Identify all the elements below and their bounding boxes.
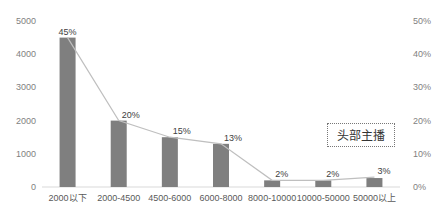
bar <box>162 137 178 187</box>
y-tick-label: 0 <box>31 182 36 192</box>
data-label: 13% <box>224 133 242 143</box>
bar <box>315 180 331 187</box>
y-tick-label: 5000 <box>16 16 36 26</box>
combo-chart: 010002000300040005000 0%10%20%30%40%50% … <box>0 0 443 220</box>
x-tick-label: 6000-8000 <box>199 193 242 203</box>
y2-tick-label: 50% <box>413 16 431 26</box>
y2-tick-label: 0% <box>413 182 426 192</box>
y2-tick-label: 10% <box>413 149 431 159</box>
x-tick-label: 10000-50000 <box>297 193 350 203</box>
y-tick-label: 3000 <box>16 82 36 92</box>
x-tick-label: 4500-6000 <box>148 193 191 203</box>
bar <box>264 180 280 187</box>
category-axis-labels: 2000以下2000-45004500-60006000-80008000-10… <box>49 193 396 203</box>
data-label: 2% <box>326 169 339 179</box>
x-tick-label: 2000-4500 <box>97 193 140 203</box>
y2-tick-label: 40% <box>413 49 431 59</box>
annotation-box: 头部主播 <box>327 123 395 147</box>
y-tick-label: 1000 <box>16 149 36 159</box>
y-tick-label: 2000 <box>16 116 36 126</box>
data-label: 15% <box>173 126 191 136</box>
right-axis-ticks: 0%10%20%30%40%50% <box>413 16 431 192</box>
x-tick-label: 2000以下 <box>49 193 87 203</box>
data-label: 20% <box>122 110 140 120</box>
data-label: 45% <box>59 27 77 37</box>
bar <box>111 121 127 187</box>
bar <box>366 178 382 187</box>
bar-series <box>60 38 383 187</box>
left-axis-ticks: 010002000300040005000 <box>16 16 36 192</box>
x-tick-label: 50000以上 <box>353 193 396 203</box>
y2-tick-label: 30% <box>413 82 431 92</box>
bar <box>213 144 229 187</box>
x-tick-label: 8000-10000 <box>248 193 296 203</box>
data-label: 2% <box>275 169 288 179</box>
data-label: 3% <box>377 166 390 176</box>
y2-tick-label: 20% <box>413 116 431 126</box>
bar <box>60 38 76 187</box>
y-tick-label: 4000 <box>16 49 36 59</box>
